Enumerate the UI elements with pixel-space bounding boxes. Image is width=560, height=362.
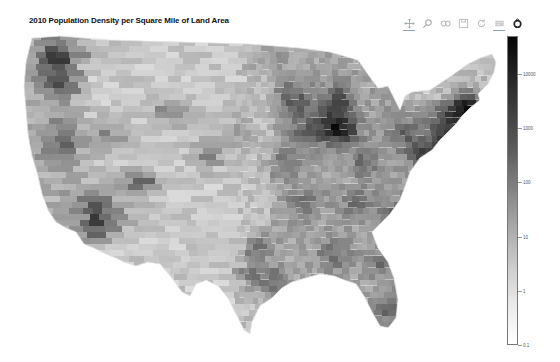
- county[interactable]: [221, 328, 231, 349]
- county[interactable]: [467, 322, 476, 332]
- county[interactable]: [90, 280, 101, 298]
- county[interactable]: [458, 124, 467, 134]
- county[interactable]: [364, 178, 373, 184]
- county[interactable]: [422, 208, 432, 216]
- county[interactable]: [288, 76, 296, 82]
- county[interactable]: [406, 184, 416, 190]
- county[interactable]: [425, 232, 435, 242]
- county[interactable]: [476, 100, 486, 107]
- county[interactable]: [250, 82, 257, 88]
- county[interactable]: [412, 64, 418, 74]
- county[interactable]: [448, 226, 455, 236]
- county[interactable]: [342, 292, 349, 298]
- county[interactable]: [267, 310, 277, 316]
- county[interactable]: [374, 52, 381, 60]
- county[interactable]: [481, 244, 490, 251]
- county[interactable]: [443, 178, 452, 187]
- county[interactable]: [468, 202, 476, 209]
- county[interactable]: [474, 130, 480, 140]
- county[interactable]: [488, 148, 496, 158]
- county[interactable]: [256, 232, 262, 238]
- county[interactable]: [309, 214, 316, 221]
- county[interactable]: [244, 316, 254, 322]
- county[interactable]: [285, 286, 293, 294]
- county[interactable]: [384, 130, 393, 137]
- county[interactable]: [392, 130, 401, 137]
- county[interactable]: [320, 304, 329, 310]
- county[interactable]: [119, 298, 131, 313]
- county[interactable]: [498, 226, 505, 234]
- county[interactable]: [484, 34, 493, 42]
- county[interactable]: [414, 304, 421, 313]
- county[interactable]: [137, 268, 153, 286]
- county[interactable]: [492, 184, 500, 191]
- county[interactable]: [374, 64, 380, 70]
- county[interactable]: [441, 94, 448, 100]
- county[interactable]: [36, 274, 51, 289]
- county[interactable]: [427, 238, 437, 245]
- county[interactable]: [488, 136, 497, 142]
- county[interactable]: [422, 172, 430, 180]
- county[interactable]: [315, 40, 321, 48]
- county[interactable]: [351, 34, 360, 42]
- county[interactable]: [398, 268, 404, 274]
- county[interactable]: [441, 280, 447, 290]
- county[interactable]: [174, 334, 186, 346]
- county[interactable]: [422, 64, 429, 70]
- county[interactable]: [459, 160, 469, 166]
- county[interactable]: [85, 256, 99, 277]
- county[interactable]: [296, 148, 304, 155]
- county[interactable]: [237, 142, 243, 149]
- county[interactable]: [422, 76, 432, 85]
- county[interactable]: [22, 292, 36, 306]
- county[interactable]: [497, 64, 507, 70]
- county[interactable]: [491, 202, 498, 212]
- county[interactable]: [334, 310, 344, 320]
- county[interactable]: [454, 160, 460, 168]
- county[interactable]: [487, 88, 493, 95]
- county[interactable]: [270, 298, 277, 307]
- county[interactable]: [260, 178, 266, 184]
- county[interactable]: [491, 82, 500, 89]
- county[interactable]: [374, 310, 383, 316]
- county[interactable]: [431, 250, 437, 258]
- county[interactable]: [444, 142, 452, 150]
- county[interactable]: [320, 232, 327, 238]
- county[interactable]: [384, 142, 393, 148]
- county[interactable]: [297, 262, 306, 269]
- county[interactable]: [490, 94, 496, 102]
- county[interactable]: [451, 142, 458, 148]
- county[interactable]: [397, 40, 406, 46]
- county[interactable]: [317, 52, 326, 59]
- county[interactable]: [236, 118, 242, 125]
- county[interactable]: [460, 328, 468, 337]
- county[interactable]: [258, 244, 268, 250]
- county[interactable]: [479, 130, 485, 138]
- county[interactable]: [382, 244, 391, 254]
- county[interactable]: [310, 112, 320, 118]
- county[interactable]: [41, 280, 53, 294]
- county[interactable]: [452, 214, 462, 224]
- county[interactable]: [452, 334, 461, 340]
- county[interactable]: [265, 106, 271, 112]
- county[interactable]: [327, 40, 334, 46]
- county[interactable]: [42, 316, 52, 328]
- county[interactable]: [261, 82, 269, 88]
- county[interactable]: [449, 64, 456, 72]
- county[interactable]: [282, 124, 291, 131]
- county[interactable]: [412, 334, 419, 344]
- county[interactable]: [73, 280, 91, 296]
- county[interactable]: [319, 310, 325, 316]
- county[interactable]: [390, 244, 398, 253]
- county[interactable]: [339, 202, 349, 209]
- county[interactable]: [367, 184, 376, 190]
- county[interactable]: [387, 148, 397, 155]
- county[interactable]: [495, 268, 505, 274]
- county[interactable]: [312, 244, 322, 250]
- county[interactable]: [442, 244, 452, 254]
- county[interactable]: [375, 274, 385, 281]
- county[interactable]: [140, 286, 154, 302]
- county[interactable]: [22, 304, 35, 323]
- county[interactable]: [475, 220, 481, 228]
- county[interactable]: [109, 292, 119, 309]
